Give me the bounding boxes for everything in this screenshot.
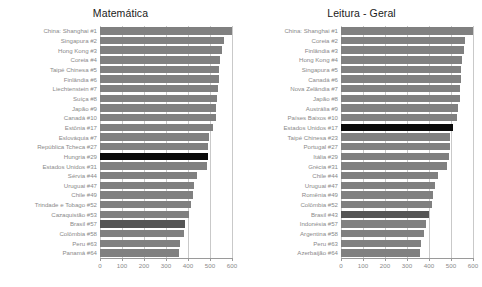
bar-row: Suíça #8 (0, 94, 241, 104)
x-tick-label: 200 (380, 262, 390, 269)
x-tick-label: 500 (205, 262, 215, 269)
bar-track (341, 161, 473, 171)
bar-track (100, 190, 232, 200)
bar-row: Uruguai #47 (241, 181, 482, 191)
bar-category-label: Argentina #58 (241, 230, 341, 237)
bar-track (100, 161, 232, 171)
bar-category-label: Brasil #57 (0, 220, 100, 227)
bar-track (100, 74, 232, 84)
bar-track (341, 142, 473, 152)
bar (100, 66, 219, 73)
bar (341, 230, 424, 237)
bar (100, 182, 194, 189)
panel-leitura-geral: Leitura - Geral China: Shanghai #1Coreia… (241, 0, 482, 287)
bar-track (100, 248, 232, 258)
bar (100, 27, 232, 34)
bar-category-label: Suíça #8 (0, 95, 100, 102)
x-tick-mark (100, 258, 101, 261)
bar (341, 114, 457, 121)
bar-row: Coreia #2 (241, 36, 482, 46)
bar-row: Japão #9 (0, 103, 241, 113)
bar (100, 104, 216, 111)
bar-row: Finlândia #6 (0, 74, 241, 84)
bar (341, 27, 473, 34)
x-tick-label: 600 (468, 262, 478, 269)
bar-row: Taipé Chinesa #5 (0, 65, 241, 75)
x-tick-mark (122, 258, 123, 261)
bar-category-label: Coreia #4 (0, 56, 100, 63)
bar-row: Chile #44 (241, 171, 482, 181)
x-tick-label: 100 (117, 262, 127, 269)
bar-category-label: Grécia #31 (241, 163, 341, 170)
bar-category-label: Singapura #5 (241, 66, 341, 73)
bar (100, 240, 180, 247)
bar (100, 75, 219, 82)
plot-area-matematica: China: Shanghai #1Singapura #2Hong Kong … (0, 26, 241, 258)
bar (100, 230, 184, 237)
bar-category-label: Taipé Chinesa #5 (0, 66, 100, 73)
bar-row: Estônia #17 (0, 123, 241, 133)
bar-row: Uruguai #47 (0, 181, 241, 191)
bar-category-label: Hungria #29 (0, 153, 100, 160)
bar-track (100, 200, 232, 210)
bar-category-label: Liechtenstein #7 (0, 85, 100, 92)
bar-category-label: Hong Kong #4 (241, 56, 341, 63)
bar-category-label: Uruguai #47 (241, 182, 341, 189)
bar (341, 124, 453, 131)
bar-track (100, 113, 232, 123)
bar (100, 95, 217, 102)
bar (341, 46, 464, 53)
bar (341, 56, 462, 63)
x-tick-mark (188, 258, 189, 261)
bar-row: Finlândia #3 (241, 45, 482, 55)
bar-category-label: Uruguai #47 (0, 182, 100, 189)
bar (341, 75, 461, 82)
pisa-bar-charts-figure: Matemática China: Shanghai #1Singapura #… (0, 0, 482, 287)
bar-track (341, 94, 473, 104)
bar-category-label: Singapura #2 (0, 37, 100, 44)
bar-row: Brasil #57 (0, 219, 241, 229)
bar-track (100, 45, 232, 55)
bar-row: China: Shanghai #1 (0, 26, 241, 36)
bar (341, 220, 426, 227)
bar-track (100, 26, 232, 36)
bar-row: Colômbia #58 (0, 229, 241, 239)
bar-rows-leitura-geral: China: Shanghai #1Coreia #2Finlândia #3H… (241, 26, 482, 258)
bar-category-label: República Tcheca #27 (0, 143, 100, 150)
x-tick-mark (144, 258, 145, 261)
bar-track (341, 65, 473, 75)
bar-category-label: China: Shanghai #1 (0, 27, 100, 34)
bar-category-label: Estados Unidos #31 (0, 163, 100, 170)
bar-track (341, 132, 473, 142)
x-tick-mark (232, 258, 233, 261)
bar-category-label: Cazaquistão #53 (0, 211, 100, 218)
bar-track (100, 36, 232, 46)
bar-track (341, 152, 473, 162)
x-axis-ticks-leitura-geral: 0100200300400500600 (341, 258, 473, 278)
bar-category-label: Peru #63 (0, 240, 100, 247)
bar-category-label: Sérvia #44 (0, 172, 100, 179)
bar-category-label: Hong Kong #3 (0, 47, 100, 54)
bar-category-label: Finlândia #6 (0, 76, 100, 83)
bar-track (341, 171, 473, 181)
bar (341, 191, 433, 198)
bar (341, 66, 461, 73)
x-tick-label: 200 (139, 262, 149, 269)
bar-category-label: Países Baixos #10 (241, 114, 341, 121)
bar (100, 249, 179, 256)
bar-track (341, 190, 473, 200)
bar-row: Argentina #58 (241, 229, 482, 239)
bar (100, 191, 193, 198)
bar-row: Romênia #49 (241, 190, 482, 200)
bar-rows-matematica: China: Shanghai #1Singapura #2Hong Kong … (0, 26, 241, 258)
bar-category-label: Panamá #64 (0, 249, 100, 256)
x-tick-mark (341, 258, 342, 261)
bar-category-label: Brasil #43 (241, 211, 341, 218)
bar-track (100, 55, 232, 65)
bar (100, 56, 220, 63)
bar-row: Cazaquistão #53 (0, 209, 241, 219)
x-tick-label: 300 (161, 262, 171, 269)
bar-row: Eslováquia #7 (0, 132, 241, 142)
bar-track (100, 103, 232, 113)
bar (341, 37, 465, 44)
